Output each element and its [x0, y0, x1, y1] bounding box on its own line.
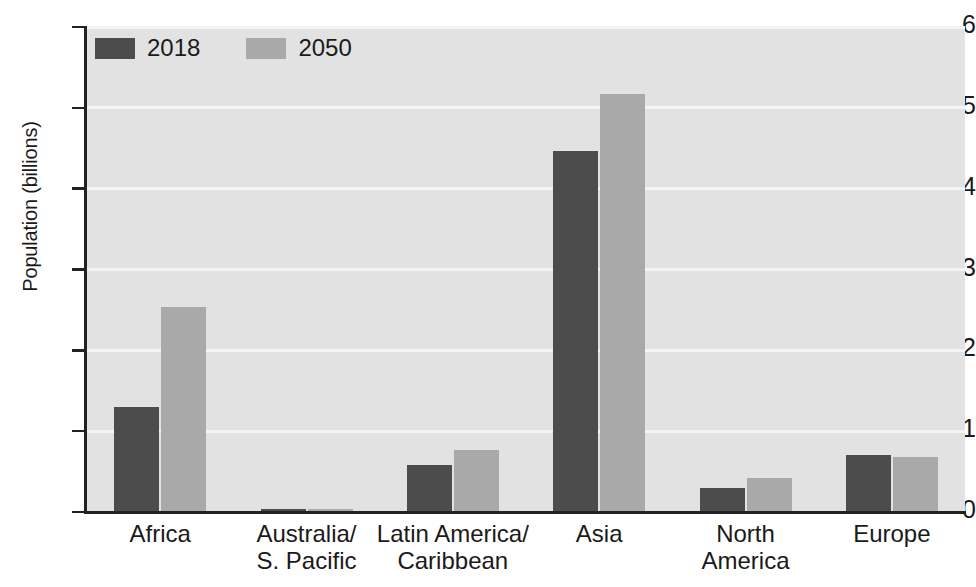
x-axis-label-3: Asia — [514, 521, 684, 548]
bar-2050-3[interactable] — [600, 94, 645, 512]
bar-2018-4[interactable] — [700, 488, 745, 512]
y-axis-title: Population (billions) — [19, 27, 42, 387]
y-tick-5 — [72, 107, 85, 110]
gridline-1 — [87, 430, 965, 433]
legend-label-2050: 2050 — [298, 36, 351, 60]
x-axis-label-5: Europe — [807, 521, 976, 548]
legend-swatch-icon-2050 — [246, 38, 286, 59]
legend-item-2050[interactable]: 2050 — [246, 36, 351, 60]
gridline-4 — [87, 187, 965, 190]
gridline-2 — [87, 349, 965, 352]
plot-area — [87, 27, 965, 512]
bar-2050-0[interactable] — [161, 307, 206, 512]
legend-label-2018: 2018 — [147, 36, 200, 60]
y-tick-3 — [72, 268, 85, 271]
bar-2050-2[interactable] — [454, 450, 499, 512]
gridline-3 — [87, 268, 965, 271]
y-tick-1 — [72, 430, 85, 433]
gridline-5 — [87, 106, 965, 109]
bar-2018-5[interactable] — [846, 455, 891, 512]
bar-2018-3[interactable] — [553, 151, 598, 512]
legend-item-2018[interactable]: 2018 — [95, 36, 200, 60]
y-tick-2 — [72, 349, 85, 352]
population-bar-chart: Population (billions) 0123456 2018 2050 … — [0, 0, 976, 587]
y-tick-4 — [72, 187, 85, 190]
x-axis-line — [84, 511, 966, 514]
bar-2050-4[interactable] — [747, 478, 792, 512]
legend: 2018 2050 — [95, 36, 352, 60]
bar-2050-5[interactable] — [893, 457, 938, 512]
x-axis-label-1: Australia/S. Pacific — [221, 521, 391, 575]
gridline-6 — [87, 26, 965, 29]
legend-swatch-icon-2018 — [95, 38, 135, 59]
x-axis-label-2: Latin America/Caribbean — [368, 521, 538, 575]
x-axis-label-4: NorthAmerica — [660, 521, 830, 575]
y-tick-6 — [72, 26, 85, 29]
bar-2018-0[interactable] — [114, 407, 159, 512]
x-axis-label-0: Africa — [75, 521, 245, 548]
bar-2018-2[interactable] — [407, 465, 452, 512]
